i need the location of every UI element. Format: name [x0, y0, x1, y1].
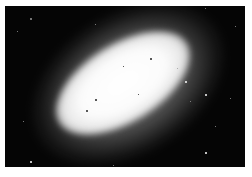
- star: [235, 26, 236, 27]
- star: [86, 110, 88, 112]
- star: [185, 81, 187, 83]
- star: [190, 101, 191, 102]
- star: [113, 165, 114, 166]
- galaxy-photo: [5, 6, 245, 167]
- star: [205, 94, 207, 96]
- star: [30, 161, 32, 163]
- star: [17, 31, 18, 32]
- star: [23, 121, 24, 122]
- star: [230, 98, 231, 99]
- star: [205, 8, 206, 9]
- star: [95, 24, 96, 25]
- star: [150, 58, 152, 60]
- star: [177, 68, 178, 69]
- star: [205, 152, 207, 154]
- star: [215, 126, 216, 127]
- star: [30, 18, 32, 20]
- star: [138, 94, 139, 95]
- star: [95, 99, 97, 101]
- star: [123, 66, 124, 67]
